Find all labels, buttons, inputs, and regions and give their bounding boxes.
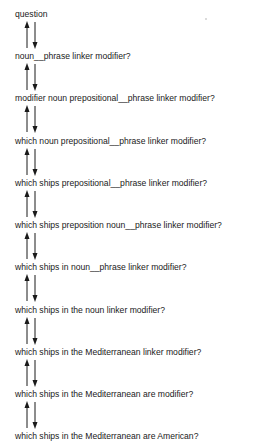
derivation-step-3: which noun prepositional__phrase linker … bbox=[15, 136, 206, 146]
connector-4-5 bbox=[22, 190, 40, 218]
arrow-up-icon bbox=[25, 21, 30, 48]
connector-3-4 bbox=[22, 148, 40, 176]
arrow-up-icon bbox=[25, 359, 30, 386]
connector-0-1 bbox=[22, 21, 40, 49]
arrow-up-icon bbox=[25, 63, 30, 90]
derivation-step-8: which ships in the Mediterranean linker … bbox=[15, 347, 201, 357]
derivation-step-6: which ships in noun__phrase linker modif… bbox=[15, 262, 187, 272]
arrow-up-icon bbox=[25, 401, 30, 428]
arrow-up-icon bbox=[25, 274, 30, 301]
derivation-step-9: which ships in the Mediterranean are mod… bbox=[15, 389, 193, 399]
derivation-step-1: noun__phrase linker modifier? bbox=[15, 51, 131, 61]
derivation-step-5: which ships preposition noun__phrase lin… bbox=[15, 220, 222, 230]
arrow-down-icon bbox=[33, 22, 38, 49]
derivation-diagram: question noun__phrase linker modifier? m… bbox=[0, 0, 253, 445]
arrow-down-icon bbox=[33, 149, 38, 176]
arrow-down-icon bbox=[33, 318, 38, 345]
derivation-step-4: which ships prepositional__phrase linker… bbox=[15, 178, 207, 188]
arrow-down-icon bbox=[33, 106, 38, 133]
connector-2-3 bbox=[22, 105, 40, 133]
connector-1-2 bbox=[22, 63, 40, 91]
derivation-step-7: which ships in the noun linker modifier? bbox=[15, 305, 165, 315]
connector-7-8 bbox=[22, 317, 40, 345]
arrow-down-icon bbox=[33, 64, 38, 91]
derivation-step-0: question bbox=[15, 9, 48, 19]
derivation-step-10: which ships in the Mediterranean are Ame… bbox=[15, 431, 198, 441]
arrow-down-icon bbox=[33, 360, 38, 387]
arrow-up-icon bbox=[25, 190, 30, 217]
connector-8-9 bbox=[22, 359, 40, 387]
connector-6-7 bbox=[22, 274, 40, 302]
arrow-down-icon bbox=[33, 191, 38, 218]
derivation-step-2: modifier noun prepositional__phrase link… bbox=[15, 93, 215, 103]
connector-5-6 bbox=[22, 232, 40, 260]
arrow-up-icon bbox=[25, 105, 30, 132]
arrow-down-icon bbox=[33, 275, 38, 302]
arrow-up-icon bbox=[25, 317, 30, 344]
arrow-down-icon bbox=[33, 233, 38, 260]
arrow-up-icon bbox=[25, 148, 30, 175]
arrow-down-icon bbox=[33, 402, 38, 429]
scan-artifact bbox=[205, 18, 207, 20]
arrow-up-icon bbox=[25, 232, 30, 259]
connector-9-10 bbox=[22, 401, 40, 429]
